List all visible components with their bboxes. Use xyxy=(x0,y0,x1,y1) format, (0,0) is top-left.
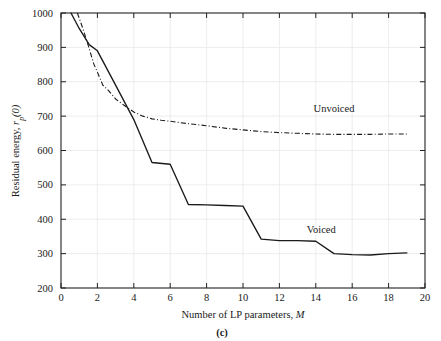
x-tick-label: 8 xyxy=(204,292,209,303)
x-tick-label: 4 xyxy=(131,292,137,303)
y-tick-label: 1000 xyxy=(32,8,53,19)
y-tick-label: 700 xyxy=(37,111,53,122)
x-tick-label: 12 xyxy=(274,292,285,303)
x-axis-title: Number of LP parameters, M xyxy=(182,309,306,320)
x-tick-label: 0 xyxy=(58,292,63,303)
figure-container: 2003004005006007008009001000 02468101214… xyxy=(0,0,441,341)
y-tick-label: 300 xyxy=(37,248,53,259)
gridlines-group xyxy=(61,13,425,288)
series-label-voiced: Voiced xyxy=(307,224,337,235)
x-tick-label: 14 xyxy=(311,292,322,303)
y-tick-label: 600 xyxy=(37,145,53,156)
data-curves-group xyxy=(71,13,407,255)
y-tick-label: 400 xyxy=(37,214,53,225)
x-tick-label: 16 xyxy=(347,292,358,303)
x-tick-label: 20 xyxy=(420,292,431,303)
series-label-unvoiced: Unvoiced xyxy=(314,103,356,114)
x-tick-label: 10 xyxy=(238,292,249,303)
figure-caption: (c) xyxy=(216,327,228,339)
y-tick-label: 500 xyxy=(37,179,53,190)
x-tick-label: 18 xyxy=(383,292,394,303)
series-annotation-group: VoicedUnvoiced xyxy=(307,103,355,235)
y-tick-labels-group: 2003004005006007008009001000 xyxy=(32,8,53,294)
y-axis-title: Residual energy, rp(0) xyxy=(10,104,26,197)
x-tick-label: 2 xyxy=(95,292,100,303)
y-tick-label: 800 xyxy=(37,76,53,87)
y-tick-label: 900 xyxy=(37,42,53,53)
x-tick-label: 6 xyxy=(168,292,173,303)
residual-energy-chart: 2003004005006007008009001000 02468101214… xyxy=(0,0,441,341)
x-tick-labels-group: 02468101214161820 xyxy=(58,292,430,303)
curve-voiced xyxy=(71,13,407,255)
y-tick-label: 200 xyxy=(37,283,53,294)
